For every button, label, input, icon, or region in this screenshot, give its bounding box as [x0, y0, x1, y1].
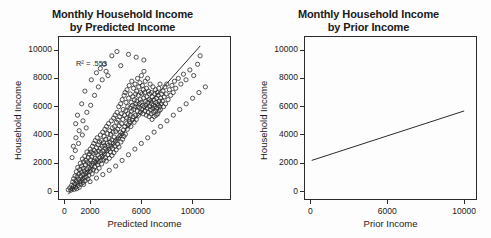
scatter-point [203, 85, 207, 89]
scatter-point [135, 76, 139, 80]
x-tick-label: 6000 [116, 206, 166, 216]
scatter-point [158, 124, 162, 128]
scatter-point [178, 107, 182, 111]
scatter-point [192, 73, 196, 77]
scatter-point [109, 119, 113, 123]
x-tick-label: 6000 [362, 206, 412, 216]
y-tick-label: 10000 [6, 44, 52, 54]
figure-root: Monthly Household Income by Predicted In… [0, 0, 491, 238]
scatter-point [106, 73, 110, 77]
scatter-point [89, 103, 93, 107]
y-tick-mark [300, 106, 304, 107]
y-tick-label: 6000 [6, 101, 52, 111]
y-tick-mark [300, 78, 304, 79]
x-tick-mark [310, 200, 311, 204]
y-tick-mark [54, 78, 58, 79]
scatter-point [167, 88, 171, 92]
scatter-point [85, 110, 89, 114]
scatter-point [107, 168, 111, 172]
scatter-point [97, 166, 101, 170]
chart-panel-right: Monthly Household Income by Prior Income… [246, 0, 491, 238]
y-tick-mark [54, 106, 58, 107]
scatter-point [139, 73, 143, 77]
scatter-point [198, 54, 202, 58]
scatter-point [140, 83, 144, 87]
scatter-point [179, 82, 183, 86]
x-tick-label: 10000 [168, 206, 218, 216]
scatter-point [172, 79, 176, 83]
scatter-point [70, 155, 74, 159]
scatter-point [76, 141, 80, 145]
scatter-point [158, 82, 162, 86]
scatter-point [80, 133, 84, 137]
chart-panel-left: Monthly Household Income by Predicted In… [0, 0, 245, 238]
y-tick-mark [54, 163, 58, 164]
scatter-point [142, 58, 146, 62]
scatter-point [181, 72, 185, 76]
y-tick-label: 0 [252, 186, 298, 196]
scatter-point [184, 102, 188, 106]
scatter-point [146, 136, 150, 140]
scatter-point [166, 98, 170, 102]
scatter-point [96, 85, 100, 89]
scatter-point [83, 89, 87, 93]
y-tick-label: 4000 [6, 129, 52, 139]
y-tick-label: 2000 [6, 157, 52, 167]
scatter-point [171, 90, 175, 94]
y-tick-label: 8000 [252, 72, 298, 82]
scatter-point [75, 113, 79, 117]
scatter-point [184, 78, 188, 82]
y-tick-label: 0 [6, 186, 52, 196]
x-tick-mark [387, 200, 388, 204]
line-overlay-right [246, 0, 491, 238]
y-tick-label: 4000 [252, 129, 298, 139]
scatter-point [124, 100, 128, 104]
x-tick-mark [141, 200, 142, 204]
x-axis-label-left: Predicted Income [58, 218, 231, 229]
y-tick-mark [300, 50, 304, 51]
scatter-point [142, 69, 146, 73]
scatter-point [114, 164, 118, 168]
scatter-point [165, 119, 169, 123]
scatter-point [134, 55, 138, 59]
scatter-point [89, 78, 93, 82]
x-tick-label: 10000 [439, 206, 489, 216]
scatter-point [101, 130, 105, 134]
scatter-point [71, 144, 75, 148]
x-tick-mark [464, 200, 465, 204]
x-tick-mark [64, 200, 65, 204]
scatter-point [174, 86, 178, 90]
scatter-point [150, 117, 154, 121]
y-tick-mark [54, 134, 58, 135]
scatter-point [197, 90, 201, 94]
scatter-point [120, 158, 124, 162]
scatter-point [152, 130, 156, 134]
scatter-point [126, 52, 130, 56]
scatter-point [127, 83, 131, 87]
scatter-point [126, 153, 130, 157]
scatter-point [133, 147, 137, 151]
r-squared-annotation: R² = .553 [76, 59, 107, 68]
scatter-point [101, 172, 105, 176]
scatter-point [188, 68, 192, 72]
scatter-point [119, 64, 123, 68]
scatter-point [77, 129, 81, 133]
scatter-point [94, 176, 98, 180]
scatter-overlay-left [0, 0, 245, 238]
scatter-point [176, 76, 180, 80]
y-tick-mark [300, 163, 304, 164]
y-tick-mark [54, 50, 58, 51]
scatter-point [92, 93, 96, 97]
y-tick-mark [300, 191, 304, 192]
scatter-point [195, 62, 199, 66]
x-tick-mark [90, 200, 91, 204]
scatter-point [135, 89, 139, 93]
x-tick-mark [192, 200, 193, 204]
scatter-point [139, 141, 143, 145]
scatter-point [80, 102, 84, 106]
scatter-point [115, 49, 119, 53]
scatter-point [104, 69, 108, 73]
x-tick-label: 2000 [65, 206, 115, 216]
regression-line [312, 111, 465, 160]
scatter-point [190, 96, 194, 100]
